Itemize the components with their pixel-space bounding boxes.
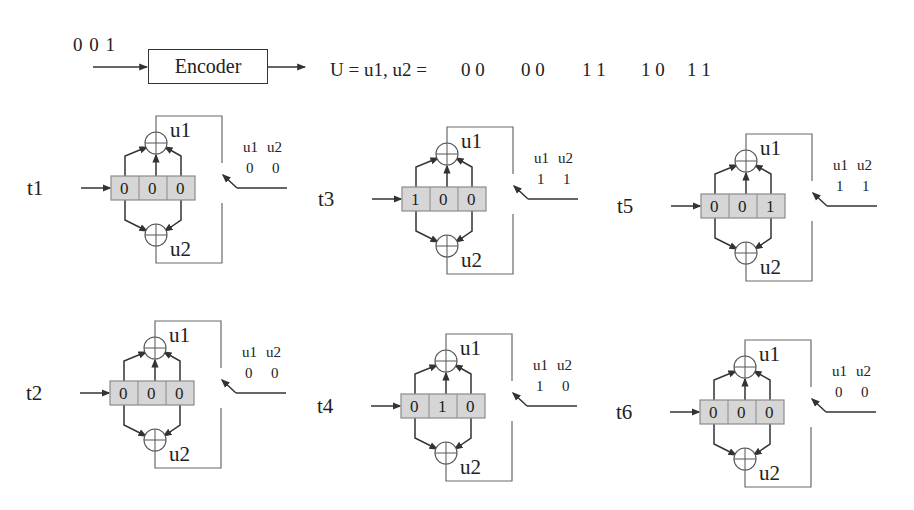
tap-line	[416, 211, 438, 242]
register-cell: 0	[737, 403, 746, 422]
time-label: t4	[317, 394, 334, 418]
time-label: t2	[26, 381, 42, 405]
u1-label: u1	[461, 129, 482, 153]
tap-line	[415, 365, 437, 394]
tap-line	[755, 218, 771, 249]
out-value-u1: 1	[537, 171, 545, 187]
u2-label: u2	[461, 248, 482, 272]
u2-adder-icon	[735, 242, 757, 264]
switch-arm	[813, 193, 827, 206]
encoder-panel-t6: t6000u1u2u1u200	[616, 340, 876, 487]
u1-label: u1	[169, 323, 190, 347]
shift-register: 100	[402, 187, 486, 211]
tap-line	[125, 147, 147, 176]
register-cell: 0	[439, 190, 448, 209]
switch-arm	[514, 186, 528, 199]
u1-adder-icon	[435, 350, 457, 372]
u2-adder-icon	[145, 224, 167, 246]
shift-register: 010	[401, 394, 485, 418]
tap-line	[455, 365, 471, 394]
out-col-u1: u1	[243, 139, 258, 155]
out-value-u2: 0	[562, 378, 570, 394]
tap-line	[456, 211, 472, 242]
out-col-u2: u2	[558, 150, 573, 166]
register-cell: 0	[147, 384, 156, 403]
u1-adder-icon	[145, 132, 167, 154]
out-value-u2: 1	[862, 178, 870, 194]
u2-label: u2	[760, 255, 781, 279]
panels-canvas: t1000u1u2u1u200t3100u1u2u1u211t5001u1u2u…	[0, 0, 914, 510]
out-col-u2: u2	[857, 157, 872, 173]
tap-line	[715, 165, 737, 194]
encoder-panel-t5: t5001u1u2u1u211	[617, 134, 877, 281]
register-cell: 0	[467, 190, 476, 209]
u1-label: u1	[759, 342, 780, 366]
out-value-u2: 0	[272, 160, 280, 176]
time-label: t5	[617, 194, 633, 218]
out-col-u1: u1	[534, 150, 549, 166]
out-value-u1: 0	[835, 384, 843, 400]
out-value-u2: 1	[563, 171, 571, 187]
register-cell: 0	[120, 179, 129, 198]
register-cell: 0	[738, 197, 747, 216]
tap-line	[456, 158, 472, 187]
tap-line	[125, 200, 147, 231]
tap-line	[755, 165, 771, 194]
out-value-u1: 0	[245, 365, 253, 381]
tap-line	[455, 418, 471, 449]
tap-line	[165, 147, 181, 176]
out-value-u2: 0	[861, 384, 869, 400]
u1-adder-icon	[144, 337, 166, 359]
out-col-u2: u2	[267, 139, 282, 155]
u2-adder-icon	[435, 442, 457, 464]
u1-adder-icon	[436, 143, 458, 165]
out-col-u1: u1	[832, 363, 847, 379]
time-label: t6	[616, 400, 632, 424]
u2-adder-icon	[734, 448, 756, 470]
register-cell: 0	[410, 397, 419, 416]
tap-line	[714, 371, 736, 400]
switch-arm	[513, 393, 527, 406]
tap-line	[124, 352, 146, 381]
tap-line	[164, 405, 180, 436]
register-cell: 0	[710, 197, 719, 216]
u2-label: u2	[170, 237, 191, 261]
u2-label: u2	[169, 442, 190, 466]
tap-line	[124, 405, 146, 436]
tap-line	[715, 218, 737, 249]
out-col-u1: u1	[533, 357, 548, 373]
out-col-u2: u2	[557, 357, 572, 373]
time-label: t3	[318, 187, 334, 211]
encoder-panel-t2: t2000u1u2u1u200	[26, 321, 286, 468]
u2-adder-icon	[436, 235, 458, 257]
switch-arm	[812, 399, 826, 412]
register-cell: 0	[175, 384, 184, 403]
out-value-u1: 0	[246, 160, 254, 176]
tap-line	[754, 424, 770, 455]
shift-register: 000	[111, 176, 195, 200]
register-cell: 0	[709, 403, 718, 422]
tap-line	[165, 200, 181, 231]
u2-adder-icon	[144, 429, 166, 451]
register-cell: 1	[766, 197, 775, 216]
encoder-panel-t3: t3100u1u2u1u211	[318, 127, 578, 274]
encoder-panel-t4: t4010u1u2u1u210	[317, 334, 577, 481]
u2-label: u2	[759, 461, 780, 485]
register-cell: 1	[438, 397, 447, 416]
register-cell: 1	[411, 190, 420, 209]
shift-register: 000	[700, 400, 784, 424]
shift-register: 000	[110, 381, 194, 405]
register-cell: 0	[148, 179, 157, 198]
out-col-u2: u2	[856, 363, 871, 379]
encoder-panel-t1: t1000u1u2u1u200	[27, 116, 287, 263]
u1-adder-icon	[735, 150, 757, 172]
tap-line	[164, 352, 180, 381]
out-col-u1: u1	[833, 157, 848, 173]
out-col-u1: u1	[242, 344, 257, 360]
register-cell: 0	[176, 179, 185, 198]
switch-arm	[222, 380, 236, 393]
tap-line	[415, 418, 437, 449]
shift-register: 001	[701, 194, 785, 218]
out-value-u1: 1	[536, 378, 544, 394]
out-value-u1: 1	[836, 178, 844, 194]
